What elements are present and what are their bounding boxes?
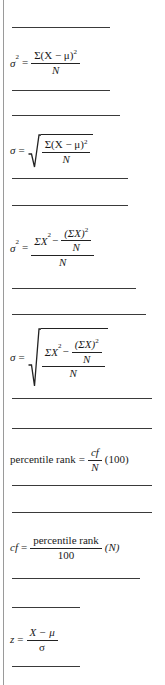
fraction: X − μ σ xyxy=(27,627,58,653)
divider-rule xyxy=(12,428,152,429)
equals-sign: = xyxy=(17,352,27,364)
equals-sign: = xyxy=(17,145,27,157)
inner-fraction-denominator: N xyxy=(70,241,83,254)
sqrt-icon xyxy=(28,134,41,168)
formula-lhs: σ xyxy=(10,352,17,364)
equals-sign: = xyxy=(16,634,26,646)
fraction-denominator: N xyxy=(59,153,72,166)
divider-rule xyxy=(12,666,80,667)
radical-sign-group: Σ(X − μ)2 N xyxy=(28,134,94,168)
fraction-inner: (ΣX)2 N xyxy=(72,339,102,365)
multiplier-term: (N) xyxy=(102,542,120,554)
divider-rule xyxy=(12,115,120,116)
formula-cumulative-frequency: cf = percentile rank 100 (N) xyxy=(10,528,162,568)
fraction-denominator: σ xyxy=(36,641,48,654)
fraction-inner: (ΣX)2 N xyxy=(61,228,91,254)
inner-fraction-denominator: N xyxy=(80,353,93,366)
fraction-numerator: percentile rank xyxy=(30,535,102,549)
formula-population-sd-raw-score: σ = ΣX2 − (ΣX)2 N xyxy=(10,325,162,391)
fraction-numerator: Σ(X − μ)2 xyxy=(31,50,80,64)
multiplier-term: (100) xyxy=(102,454,129,466)
radical-sign-group: ΣX2 − (ΣX)2 N N xyxy=(28,328,108,388)
fraction-outer: ΣX2 − (ΣX)2 N N xyxy=(31,228,94,269)
divider-rule xyxy=(12,485,152,486)
equals-sign: = xyxy=(21,242,31,254)
equals-sign: = xyxy=(21,57,31,69)
fraction: Σ(X − μ)2 N xyxy=(31,50,80,76)
divider-rule xyxy=(12,90,110,91)
formula-lhs: cf xyxy=(10,542,20,554)
divider-rule xyxy=(12,578,140,579)
formula-population-sd-deviation: σ = Σ(X − μ)2 N xyxy=(10,131,162,171)
formula-population-variance-deviation: σ2 = Σ(X − μ)2 N xyxy=(10,45,162,81)
divider-rule xyxy=(12,398,152,399)
fraction-numerator: ΣX2 − (ΣX)2 N xyxy=(42,339,105,367)
divider-rule xyxy=(12,607,80,608)
fraction-numerator: X − μ xyxy=(27,627,58,641)
divider-rule xyxy=(12,288,136,289)
fraction-numerator: cf xyxy=(88,447,102,461)
divider-rule xyxy=(12,512,152,513)
fraction: cf N xyxy=(88,447,102,473)
sum-of-squares-term: ΣX2 xyxy=(45,346,62,358)
formula-lhs: σ xyxy=(10,145,17,157)
formula-lhs: σ2 xyxy=(10,57,21,69)
formula-percentile-rank: percentile rank = cf N (100) xyxy=(10,443,162,477)
divider-rule xyxy=(12,314,146,315)
divider-rule xyxy=(12,178,128,179)
equals-sign: = xyxy=(20,542,30,554)
radicand: ΣX2 − (ΣX)2 N N xyxy=(41,328,108,388)
inner-fraction-numerator: (ΣX)2 xyxy=(61,228,91,242)
radicand: Σ(X − μ)2 N xyxy=(41,134,94,168)
sqrt-icon xyxy=(28,328,41,388)
fraction-outer: ΣX2 − (ΣX)2 N N xyxy=(42,339,105,380)
divider-rule xyxy=(12,27,110,28)
fraction: percentile rank 100 xyxy=(30,535,102,561)
fraction-denominator: N xyxy=(49,64,62,77)
fraction-denominator: N xyxy=(67,367,80,380)
formula-z-score: z = X − μ σ xyxy=(10,621,162,659)
fraction: Σ(X − μ)2 N xyxy=(42,139,91,165)
sum-of-squares-term: ΣX2 xyxy=(34,235,51,247)
formula-sheet: σ2 = Σ(X − μ)2 N σ = Σ(X − μ)2 xyxy=(0,0,165,685)
inner-fraction-numerator: (ΣX)2 xyxy=(72,339,102,353)
minus-sign: − xyxy=(61,346,71,358)
formula-lhs: percentile rank xyxy=(10,454,78,466)
fraction-denominator: N xyxy=(88,461,101,474)
fraction-denominator: N xyxy=(56,256,69,269)
fraction-numerator: ΣX2 − (ΣX)2 N xyxy=(31,228,94,256)
fraction-denominator: 100 xyxy=(55,549,78,562)
formula-population-variance-raw-score: σ2 = ΣX2 − (ΣX)2 N N xyxy=(10,219,162,277)
divider-rule xyxy=(12,205,128,206)
fraction-numerator: Σ(X − μ)2 xyxy=(42,139,91,153)
equals-sign: = xyxy=(78,454,88,466)
minus-sign: − xyxy=(51,235,61,247)
formula-lhs: σ2 xyxy=(10,242,21,254)
